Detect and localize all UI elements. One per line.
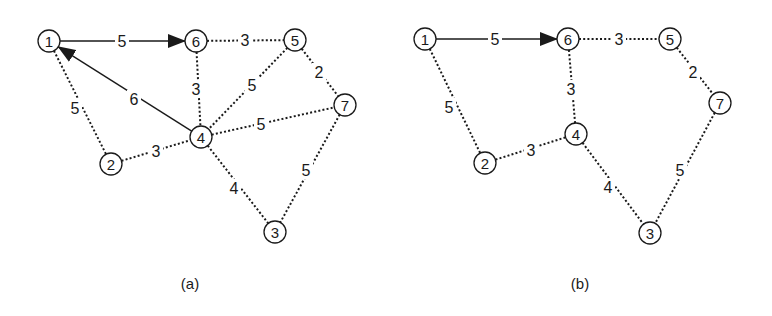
edge-weight-label: 2 <box>315 64 324 81</box>
edge-weight-label: 5 <box>676 162 685 179</box>
edge-weight-label: 5 <box>491 31 500 48</box>
edge-weight-label: 5 <box>71 100 80 117</box>
node-label: 4 <box>572 126 580 143</box>
node-1: 1 <box>38 30 60 52</box>
edge-weight-label: 4 <box>604 179 613 196</box>
edge-weight-label: 5 <box>257 116 266 133</box>
node-label: 4 <box>197 129 205 146</box>
edge-weight-label: 3 <box>615 31 624 48</box>
node-label: 6 <box>564 31 572 48</box>
edge-weight-label: 3 <box>241 32 250 49</box>
edge-4-7 <box>212 107 335 134</box>
edge-4-1 <box>58 47 191 131</box>
node-5: 5 <box>659 28 681 50</box>
edge-weight-label: 5 <box>302 162 311 179</box>
node-label: 5 <box>291 32 299 49</box>
node-7: 7 <box>334 94 356 116</box>
node-2: 2 <box>100 153 122 175</box>
edge-weight-label: 5 <box>118 33 127 50</box>
node-label: 2 <box>107 156 115 173</box>
edge-weight-label: 2 <box>689 64 698 81</box>
graph-figure: 565335253451657423(a) 553323451657423(b) <box>0 0 772 316</box>
node-5: 5 <box>284 29 306 51</box>
node-label: 5 <box>666 31 674 48</box>
edge-weight-label: 3 <box>567 81 576 98</box>
node-4: 4 <box>565 123 587 145</box>
node-6: 6 <box>557 28 579 50</box>
edge-weight-label: 3 <box>152 143 161 160</box>
node-label: 2 <box>481 155 489 172</box>
node-4: 4 <box>190 126 212 148</box>
node-3: 3 <box>639 222 661 244</box>
graph-b: 553323451657423(b) <box>414 28 731 292</box>
edge-weight-label: 5 <box>445 99 454 116</box>
figure-caption-b: (b) <box>571 275 589 292</box>
figure-caption-a: (a) <box>181 275 199 292</box>
node-1: 1 <box>414 28 436 50</box>
edge-weight-label: 6 <box>130 91 139 108</box>
edge-weight-label: 5 <box>248 77 257 94</box>
node-label: 6 <box>192 33 200 50</box>
nodes: 1657423 <box>414 28 731 244</box>
graph-a: 565335253451657423(a) <box>38 29 356 292</box>
node-label: 3 <box>271 224 279 241</box>
node-6: 6 <box>185 30 207 52</box>
node-label: 1 <box>45 33 53 50</box>
node-2: 2 <box>474 152 496 174</box>
edge-weight-label: 3 <box>527 142 536 159</box>
node-label: 7 <box>716 95 724 112</box>
edge-weight-label: 3 <box>192 81 201 98</box>
edge-weight-label: 4 <box>230 180 239 197</box>
node-7: 7 <box>709 92 731 114</box>
node-label: 1 <box>421 31 429 48</box>
node-label: 3 <box>646 225 654 242</box>
node-label: 7 <box>341 97 349 114</box>
node-3: 3 <box>264 221 286 243</box>
